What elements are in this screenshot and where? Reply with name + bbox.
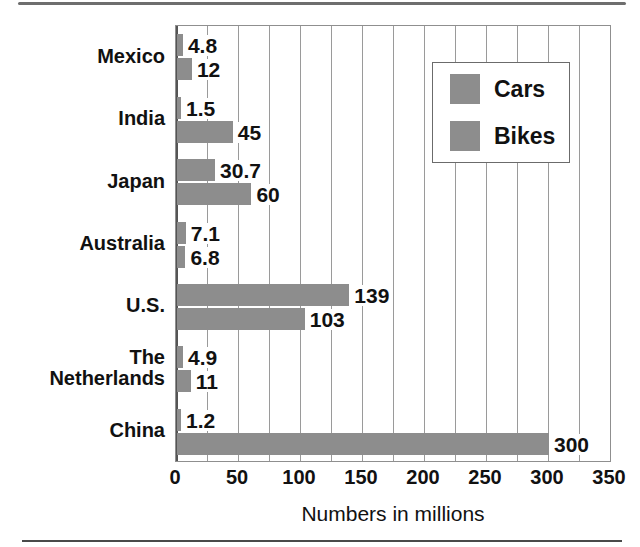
x-tick-label: 250 (468, 466, 501, 489)
legend-item-cars: Cars (450, 74, 545, 104)
category-label-the-netherlands: TheNetherlands (49, 347, 165, 389)
category-label-line: Australia (79, 233, 165, 254)
bar-bikes-japan (177, 183, 251, 205)
gridline (269, 26, 270, 461)
bar-value-label: 139 (352, 285, 391, 306)
category-label-china: China (109, 420, 165, 441)
bar-value-label: 30.7 (218, 160, 263, 181)
gridline (238, 26, 239, 461)
gridline (331, 26, 332, 461)
bar-cars-mexico (177, 34, 183, 56)
legend-label-bikes: Bikes (494, 125, 555, 148)
legend-label-cars: Cars (494, 78, 545, 101)
bar-value-label: 7.1 (189, 223, 222, 244)
legend-swatch-cars (450, 74, 480, 104)
category-label-india: India (118, 108, 165, 129)
category-label-line: Netherlands (49, 368, 165, 389)
bar-value-label: 60 (254, 184, 281, 205)
x-tick-label: 100 (282, 466, 315, 489)
bar-value-label: 103 (308, 309, 347, 330)
bar-cars-china (177, 409, 181, 431)
x-tick-label: 200 (406, 466, 439, 489)
category-label-mexico: Mexico (97, 46, 165, 67)
x-tick-label: 0 (169, 466, 180, 489)
category-label-line: India (118, 108, 165, 129)
legend-item-bikes: Bikes (450, 121, 555, 151)
bar-cars-india (177, 97, 181, 119)
bar-cars-the-netherlands (177, 346, 183, 368)
bar-value-label: 45 (236, 122, 263, 143)
value-axis-line (176, 26, 178, 461)
x-tick-label: 150 (344, 466, 377, 489)
category-label-line: The (49, 347, 165, 368)
x-tick-label: 50 (226, 466, 248, 489)
bar-value-label: 12 (195, 59, 222, 80)
bar-bikes-india (177, 121, 233, 143)
bar-value-label: 4.8 (186, 35, 219, 56)
bar-bikes-australia (177, 246, 185, 268)
category-label-u-s: U.S. (126, 295, 165, 316)
bar-value-label: 6.8 (188, 247, 221, 268)
bar-value-label: 1.5 (184, 98, 217, 119)
bar-bikes-u-s (177, 308, 305, 330)
category-label-line: China (109, 420, 165, 441)
bar-cars-u-s (177, 284, 349, 306)
bar-cars-japan (177, 159, 215, 181)
category-label-australia: Australia (79, 233, 165, 254)
gridline (393, 26, 394, 461)
x-axis-title: Numbers in millions (175, 502, 611, 526)
bar-value-label: 300 (552, 434, 591, 455)
category-label-line: Mexico (97, 46, 165, 67)
gridline (579, 26, 580, 461)
x-tick-label: 350 (592, 466, 625, 489)
bar-chart-figure: MexicoIndiaJapanAustraliaU.S.TheNetherla… (0, 0, 640, 547)
bar-value-label: 11 (194, 371, 220, 392)
bar-bikes-china (177, 433, 549, 455)
gridline (300, 26, 301, 461)
bar-value-label: 1.2 (184, 410, 217, 431)
category-label-line: U.S. (126, 295, 165, 316)
category-label-line: Japan (107, 171, 165, 192)
bar-value-label: 4.9 (186, 347, 219, 368)
bar-cars-australia (177, 222, 186, 244)
category-axis-labels: MexicoIndiaJapanAustraliaU.S.TheNetherla… (0, 0, 168, 547)
gridline (362, 26, 363, 461)
x-tick-label: 300 (530, 466, 563, 489)
category-label-japan: Japan (107, 171, 165, 192)
legend-swatch-bikes (450, 121, 480, 151)
bar-bikes-the-netherlands (177, 370, 191, 392)
bar-bikes-mexico (177, 58, 192, 80)
x-axis-tick-labels: 050100150200250300350 (175, 466, 611, 492)
chart-legend: Cars Bikes (432, 62, 570, 163)
gridline (424, 26, 425, 461)
